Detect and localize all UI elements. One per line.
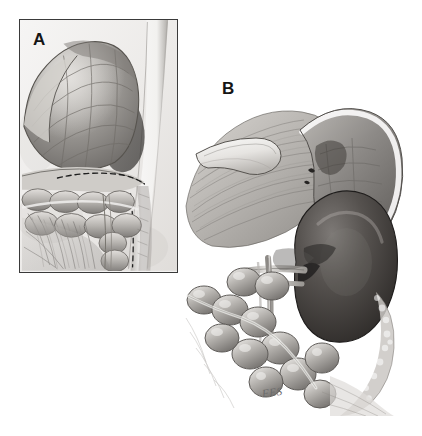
kidney-highlight bbox=[320, 228, 372, 296]
panel-b bbox=[180, 86, 410, 416]
panel-a-illustration bbox=[20, 20, 177, 271]
panel-a bbox=[19, 19, 178, 273]
figure-root: A bbox=[0, 0, 422, 436]
artist-signature: FES bbox=[261, 385, 283, 399]
panel-label-a: A bbox=[33, 31, 46, 48]
panel-b-illustration bbox=[180, 86, 410, 416]
panel-label-b: B bbox=[222, 80, 235, 97]
